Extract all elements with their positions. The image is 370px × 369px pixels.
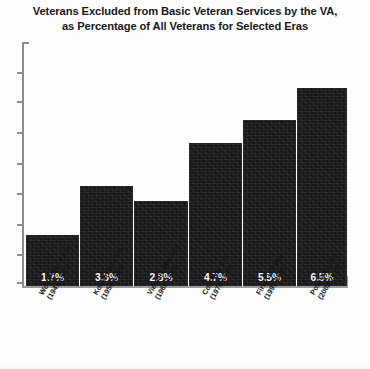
- x-label-era: Vietnam War Era: [145, 214, 198, 296]
- x-label-era: Post-2001 Era: [308, 214, 361, 296]
- x-label-vietnam-war-era: Vietnam War Era (1965-1975): [145, 214, 206, 301]
- x-label-cold-war-era: Cold War Era (1976-1990): [200, 214, 261, 301]
- x-label-era: First Gulf War: [254, 214, 307, 296]
- x-label-post-2001-era: Post-2001 Era (2002-2013): [308, 214, 369, 301]
- x-axis-category-labels: World War II Era (1941-1945) Korean War …: [0, 0, 370, 369]
- bar-chart-figure: Veterans Excluded from Basic Veteran Ser…: [0, 0, 370, 369]
- x-label-era: Cold War Era: [200, 214, 253, 296]
- x-label-first-gulf-war: First Gulf War (1991-2001): [254, 214, 315, 301]
- x-label-korean-war-era: Korean War Era (1950-1955): [91, 214, 152, 301]
- x-label-world-war-ii-era: World War II Era (1941-1945): [37, 214, 98, 301]
- x-label-era: World War II Era: [37, 214, 90, 296]
- x-label-era: Korean War Era: [91, 214, 144, 296]
